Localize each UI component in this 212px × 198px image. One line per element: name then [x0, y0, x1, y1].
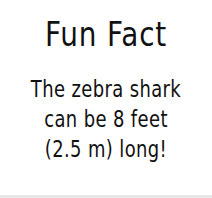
fact-line-1: The zebra shark: [23, 74, 188, 104]
fun-fact-card: Fun Fact The zebra shark can be 8 feet (…: [0, 0, 212, 198]
bottom-divider: [0, 195, 212, 198]
fact-line-2: can be 8 feet: [23, 104, 188, 134]
fact-line-3: (2.5 m) long!: [23, 134, 188, 164]
fun-fact-title: Fun Fact: [19, 14, 193, 54]
fun-fact-body: The zebra shark can be 8 feet (2.5 m) lo…: [0, 74, 212, 164]
